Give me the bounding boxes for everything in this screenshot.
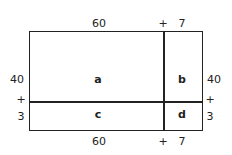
vertical-divider xyxy=(163,31,165,130)
bottom-label-60: 60 xyxy=(92,136,106,148)
top-label-plus: + xyxy=(158,18,167,30)
left-label-plus: + xyxy=(16,94,25,106)
outer-rectangle xyxy=(29,31,203,131)
cell-d-label: d xyxy=(178,109,186,121)
top-label-7: 7 xyxy=(179,18,186,30)
top-label-60: 60 xyxy=(92,18,106,30)
cell-c-label: c xyxy=(95,109,102,121)
left-label-3: 3 xyxy=(18,111,25,123)
bottom-label-plus: + xyxy=(158,136,167,148)
right-label-plus: + xyxy=(205,94,214,106)
right-label-40: 40 xyxy=(207,74,221,86)
right-label-3: 3 xyxy=(207,111,214,123)
cell-a-label: a xyxy=(94,74,101,86)
horizontal-divider xyxy=(29,101,203,103)
left-label-40: 40 xyxy=(10,74,24,86)
bottom-label-7: 7 xyxy=(179,136,186,148)
cell-b-label: b xyxy=(178,74,186,86)
